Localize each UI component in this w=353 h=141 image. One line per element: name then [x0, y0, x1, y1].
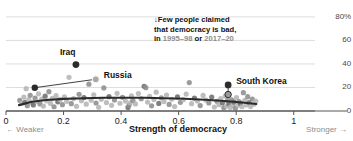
scatter-point [91, 92, 96, 97]
annotation-line-3-prefix: in [154, 34, 163, 43]
x-axis-group [6, 111, 347, 115]
scatter-point [201, 93, 206, 98]
scatter-point [96, 105, 101, 110]
scatter-point [167, 102, 172, 107]
scatter-point [133, 101, 138, 106]
scatter-point [184, 91, 189, 96]
scatter-point [76, 92, 81, 97]
scatter-point [41, 103, 46, 108]
scatter-point [51, 104, 56, 109]
scatter-point [46, 89, 51, 94]
scatter-point [189, 101, 194, 106]
scatter-point [21, 95, 26, 100]
scatter-point [28, 93, 33, 98]
scatter-point [149, 103, 154, 108]
scatter-point [164, 92, 169, 97]
scatter-point [145, 99, 150, 104]
scatter-point [114, 91, 119, 96]
annotation-year-range-2: 2017–20 [204, 34, 234, 43]
x-axis-stronger-note: Stronger → [306, 125, 347, 134]
scatter-points [17, 75, 258, 111]
scatter-point [206, 100, 211, 105]
scatter-point [117, 101, 122, 106]
scatter-point [123, 99, 128, 104]
highlight-point-south-korea [225, 81, 232, 88]
highlight-point [32, 85, 38, 91]
scatter-point [143, 85, 148, 90]
highlight-point-russia [92, 76, 99, 83]
scatter-point [209, 95, 214, 100]
scatter-point [156, 101, 161, 106]
scatter-point [86, 82, 91, 87]
scatter-point [84, 102, 89, 107]
scatter-point [136, 91, 141, 96]
point-label-russia: Russia [104, 70, 132, 80]
x-tick-label-0.2: 0.2 [44, 116, 84, 126]
highlight-point [225, 91, 231, 97]
scatter-point [241, 90, 246, 95]
scatter-point [69, 101, 74, 106]
connector-lines [35, 79, 228, 94]
y-tick-label-20: 20 [342, 82, 351, 91]
scatter-point [53, 93, 58, 98]
annotation-line-3-middle: or [192, 34, 204, 43]
x-axis-weaker-note: ← Weaker [6, 125, 44, 134]
scatter-point [104, 100, 109, 105]
scatter-point [172, 104, 177, 109]
scatter-point [187, 80, 192, 85]
scatter-point [161, 99, 166, 104]
y-tick-label-40: 40 [342, 59, 351, 68]
scatter-point [212, 104, 217, 109]
y-tick-label-0: 0 [347, 106, 351, 115]
annotation-callout: ↓Few people claimed that democracy is ba… [154, 15, 250, 44]
scatter-point [245, 94, 250, 99]
scatter-point [36, 91, 41, 96]
scatter-point [74, 104, 79, 109]
highlight-point-iraq [73, 61, 80, 68]
scatter-point [154, 90, 159, 95]
scatter-point [24, 86, 29, 91]
annotation-line-1: Few people claimed [158, 15, 230, 24]
point-label-iraq: Iraq [60, 47, 76, 57]
annotation-line-2: that democracy is bad, [154, 25, 236, 34]
point-label-south-korea: South Korea [236, 76, 287, 86]
scatter-point [101, 85, 106, 90]
democracy-scatter-chart: 020406080% 00.20.40.60.81 IraqRussiaSout… [0, 0, 353, 141]
y-tick-label-60: 60 [342, 35, 351, 44]
scatter-point [198, 103, 203, 108]
scatter-point [60, 102, 65, 107]
scatter-point [43, 94, 48, 99]
annotation-year-range-1: 1995–98 [163, 34, 193, 43]
x-axis-title: Strength of democracy [113, 124, 243, 134]
scatter-point [109, 103, 114, 108]
y-tick-label-80%: 80% [335, 12, 351, 21]
scatter-point [66, 75, 71, 80]
